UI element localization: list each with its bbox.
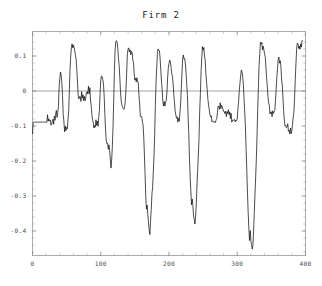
line-chart-plot: 0100200300400 0.10-0.1-0.2-0.3-0.4 (0, 0, 322, 286)
x-tick-label: 300 (231, 260, 243, 267)
y-axis-major-ticks (33, 56, 306, 231)
y-tick-label: 0.1 (14, 52, 26, 59)
x-tick-label: 0 (30, 260, 34, 267)
y-tick-label: -0.3 (10, 192, 26, 199)
y-tick-label: 0 (22, 87, 26, 94)
y-axis-minor-ticks (33, 35, 306, 252)
y-tick-label: -0.4 (10, 227, 26, 234)
x-tick-label: 400 (299, 260, 311, 267)
y-tick-label: -0.2 (10, 157, 26, 164)
x-tick-label: 200 (163, 260, 175, 267)
y-tick-label: -0.1 (10, 122, 26, 129)
x-axis-tick-labels: 0100200300400 (30, 260, 311, 267)
x-tick-label: 100 (95, 260, 107, 267)
y-axis-tick-labels: 0.10-0.1-0.2-0.3-0.4 (10, 52, 26, 234)
data-series-line (33, 40, 303, 249)
chart-figure: Firm 2 0100200300400 0.10-0.1-0.2-0.3-0.… (0, 0, 322, 286)
